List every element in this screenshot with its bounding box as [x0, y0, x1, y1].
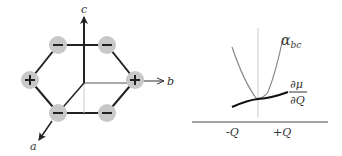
- charge-site-bottom-left: [49, 104, 67, 122]
- axis-a-label: a: [30, 140, 37, 153]
- label-alpha-bc: αbc: [281, 32, 301, 50]
- charge-site-bottom-right: [98, 104, 116, 122]
- axis-b-label: b: [167, 75, 174, 88]
- axis-a-arrow: [39, 121, 52, 140]
- charge-site-left: [21, 71, 39, 89]
- curve-dmu-dq: [232, 92, 288, 107]
- label-dmu-numerator: ∂μ: [290, 78, 303, 91]
- response-graph: αbc ∂μ ∂Q -Q +Q: [192, 28, 328, 139]
- charge-site-top-right: [98, 36, 116, 54]
- charge-site-top-left: [49, 36, 67, 54]
- x-tick-minus-q: -Q: [226, 126, 239, 139]
- charge-site-right: [126, 71, 144, 89]
- x-tick-plus-q: +Q: [273, 126, 291, 139]
- hexagon-bonds: [30, 45, 135, 113]
- label-dmu-denominator: ∂Q: [290, 94, 305, 107]
- axis-c-label: c: [81, 3, 87, 16]
- figure: c b a: [0, 0, 342, 156]
- hexagon-diagram: c b a: [21, 3, 174, 153]
